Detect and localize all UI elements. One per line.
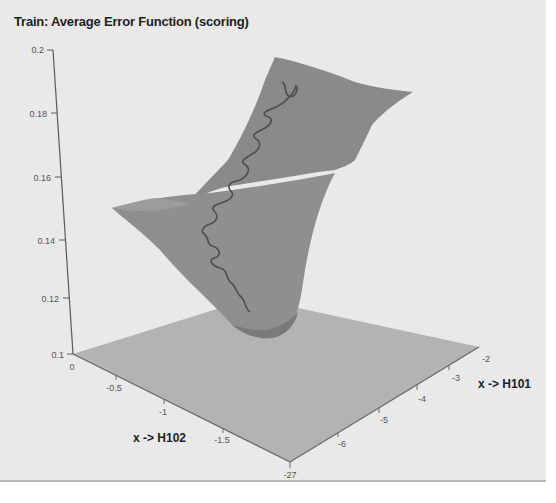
x-axis-title: x -> H102	[133, 431, 186, 445]
y-axis-title: x -> H101	[478, 377, 531, 391]
svg-text:-0.5: -0.5	[106, 383, 122, 393]
svg-text:0.18: 0.18	[29, 109, 47, 119]
svg-text:-6: -6	[338, 439, 346, 449]
svg-text:-4: -4	[418, 394, 426, 404]
svg-text:0.1: 0.1	[51, 350, 64, 360]
svg-text:-1: -1	[159, 407, 167, 417]
svg-text:-2: -2	[482, 354, 490, 364]
svg-text:0.2: 0.2	[31, 45, 44, 55]
z-tick-labels: 0.2 0.18 0.16 0.14 0.12 0.1	[29, 45, 64, 360]
svg-text:-1.5: -1.5	[214, 435, 230, 445]
surface-plot: 0.2 0.18 0.16 0.14 0.12 0.1 0 -0.5 -1 -1…	[0, 0, 556, 503]
svg-text:-3: -3	[452, 373, 460, 383]
svg-text:0: 0	[69, 362, 74, 372]
svg-text:0.12: 0.12	[41, 294, 59, 304]
z-axis-ticks	[47, 50, 73, 354]
svg-text:-27: -27	[283, 470, 296, 480]
chart-panel: Train: Average Error Function (scoring)	[0, 0, 546, 482]
svg-text:0.14: 0.14	[37, 236, 55, 246]
svg-text:0.16: 0.16	[33, 173, 51, 183]
z-axis-line	[53, 50, 73, 354]
svg-text:-5: -5	[380, 415, 388, 425]
